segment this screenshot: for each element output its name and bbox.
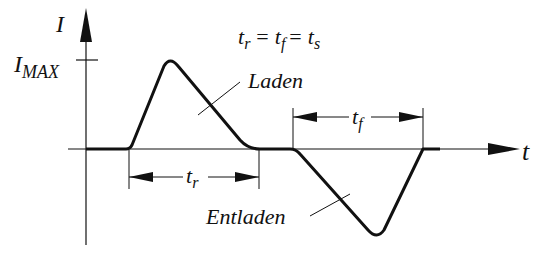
y-axis-label: I — [55, 11, 65, 37]
laden-label: Laden — [247, 68, 303, 93]
tf-arrow-left-icon — [293, 112, 317, 122]
tr-arrow-left-icon — [129, 172, 153, 182]
entladen-label: Entladen — [205, 204, 285, 229]
x-axis-arrow-icon — [488, 143, 520, 155]
x-axis-label: t — [522, 137, 530, 166]
tf-label: tf — [352, 104, 365, 133]
tf-arrow-right-icon — [399, 112, 423, 122]
tr-label: tr — [186, 163, 199, 191]
tr-arrow-right-icon — [235, 172, 259, 182]
imax-label: IMAX — [13, 51, 60, 82]
waveform-diagram: I t IMAX tr=tf=ts Laden Entladen tr tf — [0, 0, 539, 259]
timing-equation: tr=tf=ts — [238, 24, 320, 53]
y-axis-arrow-icon — [80, 8, 92, 42]
